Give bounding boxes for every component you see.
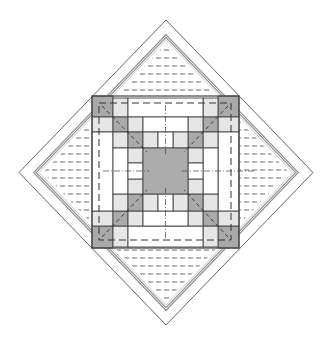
ring2-right-t — [203, 132, 218, 148]
ring2-top-r — [188, 117, 203, 132]
ring2-corner-tl — [113, 117, 128, 132]
ring2-corner-bl — [113, 211, 128, 226]
ring2-corner-br — [203, 211, 218, 226]
strip-left-bottom — [92, 211, 113, 226]
ring3-right-t — [188, 148, 203, 163]
ring3-top-l — [143, 132, 158, 148]
ring3-corner-br — [188, 194, 203, 211]
ring3-top-r — [173, 132, 188, 148]
ring3-bottom-l — [143, 194, 158, 211]
ring2-right-b — [203, 194, 218, 211]
strip-bottom-right — [203, 226, 218, 247]
strip-top-right — [203, 98, 218, 117]
ring3-left-b — [128, 179, 143, 194]
ring2-bottom-l — [128, 211, 143, 226]
ring2-top-l — [128, 117, 143, 132]
ring2-corner-tr — [203, 117, 218, 132]
ring3-left-t — [128, 148, 143, 163]
ring3-right-b — [188, 179, 203, 194]
corner-top-right — [218, 96, 239, 117]
quilt-block-diagram — [0, 0, 327, 343]
ring2-bottom-r — [188, 211, 203, 226]
strip-right-top — [218, 117, 239, 132]
strip-top-left — [113, 98, 128, 117]
bar-right — [218, 132, 239, 211]
ring3-corner-tr — [188, 132, 203, 148]
ring3-bottom-r — [173, 194, 188, 211]
strip-left-top — [92, 117, 113, 132]
strip-bottom-left — [113, 226, 128, 247]
bar-left — [92, 132, 113, 211]
strip-right-bottom — [218, 211, 239, 226]
ring3-corner-tl — [128, 132, 143, 148]
center-square — [143, 148, 188, 194]
ring2-left-t — [113, 132, 128, 148]
ring2-left-b — [113, 194, 128, 211]
